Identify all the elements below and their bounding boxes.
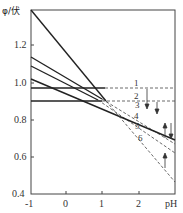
x-tick-label: -1	[25, 198, 33, 209]
line-label-3: 3	[135, 100, 140, 110]
line-label-6: 6	[138, 133, 143, 143]
x-axis-title: pH	[165, 198, 177, 209]
chart-canvas: 1.2 1.0 0.8 0.6 0.4 -1 0 1 2 pH φ/伏 1 2 …	[0, 0, 183, 213]
plot-frame	[31, 10, 175, 194]
x-tick-label: 2	[136, 198, 141, 209]
y-tick-label: 0.4	[12, 188, 25, 199]
line-label-1: 1	[134, 78, 139, 88]
x-tick-label: 1	[99, 198, 104, 209]
y-tick-label: 0.6	[14, 151, 27, 162]
x-tick-label: 0	[63, 198, 68, 209]
y-axis-title: φ/伏	[2, 5, 20, 16]
y-tick-label: 0.8	[14, 114, 27, 125]
line-label-4: 4	[134, 111, 139, 121]
line-label-5: 5	[135, 121, 140, 131]
y-tick-label: 1.2	[14, 39, 27, 50]
y-tick-label: 1.0	[14, 77, 27, 88]
line-3-solid	[31, 57, 102, 99]
